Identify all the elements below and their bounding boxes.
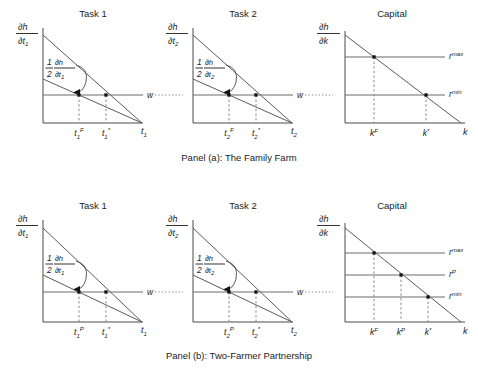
half-den-a-task2: ∂t2 bbox=[205, 70, 215, 80]
half-frac-den-b-task2: 2 bbox=[196, 265, 202, 275]
tick-label-kF-b: kF bbox=[370, 326, 379, 338]
chart-b-capital: Capital ∂h ∂k rmax rP rmin kF kP k* bbox=[317, 200, 468, 337]
curve-marginal-capital-a bbox=[345, 35, 461, 123]
point-kF-a bbox=[372, 55, 375, 58]
xaxis-label-a-task2: t2 bbox=[291, 126, 298, 138]
tick-label-tP-b-task2: t2P bbox=[224, 325, 235, 339]
curve-full-marginal-b-task2 bbox=[193, 228, 292, 322]
xaxis-label-b-task1: t1 bbox=[141, 325, 147, 337]
curve-half-marginal-b-task2 bbox=[193, 275, 292, 322]
economics-figure: Task 1 ∂h ∂t1 1 bbox=[0, 0, 478, 371]
point-kstar-b bbox=[426, 295, 429, 298]
curve-full-marginal-a-task1 bbox=[43, 35, 142, 123]
yaxis-denominator-a-task2: ∂t2 bbox=[168, 36, 179, 47]
yaxis-denominator-b-capital: ∂k bbox=[319, 228, 328, 238]
curve-full-marginal-b-task1 bbox=[43, 228, 142, 322]
panel-b: Task 1 ∂h ∂t1 1 2 ∂h ∂t1 bbox=[16, 200, 468, 361]
xaxis-label-b-task2: t2 bbox=[291, 325, 298, 337]
xaxis-label-b-capital: k bbox=[463, 326, 468, 336]
half-num-b-task2: ∂h bbox=[205, 254, 213, 263]
yaxis-numerator-b-capital: ∂h bbox=[319, 214, 328, 224]
half-den-a-task1: ∂t1 bbox=[55, 70, 64, 80]
rate-label-rmin-a: rmin bbox=[449, 88, 462, 100]
xaxis-label-a-task1: t1 bbox=[141, 126, 147, 138]
chart-title-a-task1: Task 1 bbox=[79, 8, 106, 19]
tick-label-kP-b: kP bbox=[397, 326, 406, 338]
yaxis-label-b-task1: ∂h ∂t1 bbox=[16, 214, 38, 239]
tick-label-tP-b-task1: t1P bbox=[74, 325, 85, 339]
axes-a-capital bbox=[345, 31, 465, 123]
half-num-a-task1: ∂h bbox=[55, 58, 63, 67]
chart-a-task2: Task 2 ∂h ∂t2 1 2 ∂h ∂t2 bbox=[166, 8, 333, 140]
curve-half-marginal-a-task1 bbox=[43, 79, 142, 123]
chart-b-task2: Task 2 ∂h ∂t2 1 2 ∂h ∂t2 bbox=[166, 200, 333, 339]
pointer-arrow-curve-b-task1 bbox=[76, 261, 87, 289]
yaxis-label-b-capital: ∂h ∂k bbox=[317, 214, 340, 238]
tick-label-tstar-a-task2: t2* bbox=[252, 126, 261, 140]
tick-label-kstar-b: k* bbox=[425, 326, 432, 338]
yaxis-label-b-task2: ∂h ∂t2 bbox=[166, 214, 188, 239]
yaxis-numerator-a-task2: ∂h bbox=[168, 22, 177, 32]
point-tstar-b-task2 bbox=[254, 290, 257, 293]
curve-half-marginal-b-task1 bbox=[43, 275, 142, 322]
half-num-b-task1: ∂h bbox=[55, 254, 63, 263]
yaxis-denominator-b-task2: ∂t2 bbox=[168, 228, 179, 239]
axes-b-capital bbox=[345, 223, 465, 322]
point-tstar-a-task2 bbox=[254, 93, 257, 96]
tick-label-tF-a-task2: t2F bbox=[224, 126, 235, 140]
curve-full-marginal-a-task2 bbox=[193, 35, 292, 123]
chart-b-task1: Task 1 ∂h ∂t1 1 2 ∂h ∂t1 bbox=[16, 200, 183, 339]
chart-title-a-task2: Task 2 bbox=[229, 8, 256, 19]
half-frac-den-b-task1: 2 bbox=[46, 265, 52, 275]
yaxis-label-a-capital: ∂h ∂k bbox=[317, 22, 340, 46]
yaxis-numerator-b-task1: ∂h bbox=[18, 214, 27, 224]
curve-half-marginal-a-task2 bbox=[193, 79, 292, 123]
yaxis-label-a-task2: ∂h ∂t2 bbox=[166, 22, 188, 47]
pointer-arrow-curve-b-task2 bbox=[226, 261, 237, 289]
tick-label-tstar-a-task1: t1* bbox=[102, 126, 111, 140]
half-num-a-task2: ∂h bbox=[205, 58, 213, 67]
chart-title-b-task2: Task 2 bbox=[229, 200, 256, 211]
chart-a-task1: Task 1 ∂h ∂t1 1 bbox=[16, 8, 183, 140]
yaxis-label-a-task1: ∂h ∂t1 bbox=[16, 22, 38, 47]
panel-caption-a: Panel (a): The Family Farm bbox=[181, 152, 297, 163]
rate-label-rmin-b: rmin bbox=[449, 290, 462, 302]
tick-label-tstar-b-task1: t1* bbox=[102, 325, 111, 339]
point-tstar-b-task1 bbox=[104, 290, 107, 293]
half-frac-den-a-task2: 2 bbox=[196, 69, 202, 79]
tick-label-tstar-b-task2: t2* bbox=[252, 325, 261, 339]
wage-label-a-task2: w bbox=[297, 90, 304, 100]
half-frac-den-a-task1: 2 bbox=[46, 69, 52, 79]
yaxis-denominator-a-capital: ∂k bbox=[319, 36, 328, 46]
panel-caption-b: Panel (b): Two-Farmer Partnership bbox=[166, 350, 312, 361]
chart-title-b-task1: Task 1 bbox=[79, 200, 106, 211]
yaxis-denominator-b-task1: ∂t1 bbox=[18, 228, 28, 239]
wage-label-b-task2: w bbox=[297, 287, 304, 297]
point-tstar-a-task1 bbox=[104, 93, 107, 96]
panel-a: Task 1 ∂h ∂t1 1 bbox=[16, 8, 468, 163]
point-kP-b bbox=[399, 273, 402, 276]
yaxis-numerator-a-capital: ∂h bbox=[319, 22, 328, 32]
point-kF-b bbox=[372, 251, 375, 254]
xaxis-label-a-capital: k bbox=[463, 127, 468, 137]
rate-label-rP-b: rP bbox=[449, 268, 457, 280]
wage-label-b-task1: w bbox=[147, 287, 154, 297]
chart-title-b-capital: Capital bbox=[377, 200, 407, 211]
tick-label-kF-a: kF bbox=[370, 127, 379, 139]
half-frac-num-b-task1: 1 bbox=[47, 253, 52, 263]
half-frac-num-b-task2: 1 bbox=[197, 253, 202, 263]
rate-label-rmax-a: rmax bbox=[449, 50, 464, 62]
half-frac-num-a-task2: 1 bbox=[197, 57, 202, 67]
half-den-b-task2: ∂t2 bbox=[205, 266, 215, 276]
half-frac-num-a-task1: 1 bbox=[47, 57, 52, 67]
tick-label-tF-a-task1: t1F bbox=[74, 126, 85, 140]
tick-label-kstar-a: k* bbox=[423, 127, 430, 139]
point-kstar-a bbox=[424, 93, 427, 96]
chart-a-capital: Capital ∂h ∂k rmax rmin kF k* k bbox=[317, 8, 468, 138]
yaxis-denominator-a-task1: ∂t1 bbox=[18, 36, 28, 47]
rate-label-rmax-b: rmax bbox=[449, 246, 464, 258]
chart-title-a-capital: Capital bbox=[377, 8, 407, 19]
yaxis-numerator-b-task2: ∂h bbox=[168, 214, 177, 224]
yaxis-numerator-a-task1: ∂h bbox=[18, 22, 27, 32]
half-den-b-task1: ∂t1 bbox=[55, 266, 64, 276]
